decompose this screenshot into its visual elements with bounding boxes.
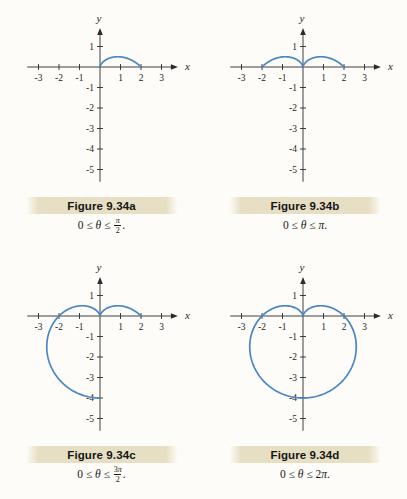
y-axis-arrowhead: [300, 28, 306, 35]
y-tick-label: -1: [289, 332, 297, 342]
y-axis-arrowhead: [97, 277, 103, 284]
y-tick-label: -2: [289, 352, 297, 362]
figure-label-band-a: Figure 9.34a: [26, 197, 178, 214]
x-tick-label: 3: [362, 322, 367, 332]
figure-label-band-d: Figure 9.34d: [229, 446, 381, 463]
greek-letter: π: [321, 468, 327, 480]
y-tick-label: 1: [292, 291, 297, 301]
x-tick-label: -2: [55, 322, 63, 332]
x-tick-label: 2: [342, 73, 347, 83]
theta-range-b: 0 ≤ θ ≤ π.: [283, 215, 327, 235]
x-axis-label: x: [183, 60, 189, 72]
y-tick-label: -3: [86, 373, 94, 383]
y-tick-label: -5: [289, 165, 297, 175]
fraction-numerator: 3π: [114, 465, 122, 474]
greek-letter: θ: [96, 219, 102, 231]
fraction-denominator: 2: [114, 474, 121, 484]
plot-canvas-c: -3-2-11231-1-2-3-4-5xy: [1, 255, 203, 443]
y-axis-arrowhead: [300, 277, 306, 284]
fraction-numerator: π: [116, 216, 120, 225]
x-tick-label: 3: [159, 73, 164, 83]
y-tick-label: -2: [86, 103, 94, 113]
figure-label-band-b: Figure 9.34b: [229, 197, 381, 214]
x-tick-label: -3: [34, 322, 42, 332]
x-axis-label: x: [183, 309, 189, 321]
greek-letter: π: [318, 219, 324, 231]
y-axis-label: y: [299, 12, 305, 24]
y-axis-arrowhead: [97, 28, 103, 35]
fraction: 3π2: [114, 465, 122, 484]
figure-panel-a: -3-2-11231-1-2-3-4-5xy Figure 9.34a 0 ≤ …: [0, 0, 203, 249]
y-tick-label: -1: [86, 332, 94, 342]
x-axis-arrowhead: [374, 64, 381, 70]
x-tick-label: -2: [258, 73, 266, 83]
plot-canvas-d: -3-2-11231-1-2-3-4-5xy: [204, 255, 406, 443]
x-tick-label: 2: [138, 322, 143, 332]
x-tick-label: -3: [238, 73, 246, 83]
y-tick-label: 1: [292, 42, 297, 52]
figure-label-band-c: Figure 9.34c: [26, 446, 178, 463]
x-tick-label: 1: [321, 322, 326, 332]
x-tick-label: -3: [238, 322, 246, 332]
y-tick-label: 1: [89, 42, 94, 52]
x-axis-arrowhead: [374, 313, 381, 319]
figure-panel-d: -3-2-11231-1-2-3-4-5xy Figure 9.34d 0 ≤ …: [203, 249, 407, 499]
y-tick-label: 1: [89, 291, 94, 301]
figure-label-c: Figure 9.34c: [67, 449, 135, 461]
fraction-denominator: 2: [114, 225, 121, 235]
figure-label-b: Figure 9.34b: [271, 200, 340, 212]
greek-letter: π: [118, 465, 122, 474]
y-tick-label: -2: [86, 352, 94, 362]
x-axis-arrowhead: [170, 313, 177, 319]
y-tick-label: -3: [289, 373, 297, 383]
x-tick-label: 1: [118, 73, 123, 83]
y-axis-label: y: [299, 261, 305, 273]
x-tick-label: -1: [75, 73, 83, 83]
theta-range-c: 0 ≤ θ ≤ 3π2.: [77, 464, 125, 484]
x-tick-label: 2: [138, 73, 143, 83]
x-tick-label: -1: [279, 322, 287, 332]
x-tick-label: 3: [159, 322, 164, 332]
y-tick-label: -4: [289, 144, 297, 154]
plot-canvas-a: -3-2-11231-1-2-3-4-5xy: [1, 6, 203, 194]
plot-canvas-b: -3-2-11231-1-2-3-4-5xy: [204, 6, 406, 194]
x-tick-label: -1: [279, 73, 287, 83]
y-tick-label: -5: [289, 414, 297, 424]
x-tick-label: 3: [362, 73, 367, 83]
y-tick-label: -4: [86, 144, 94, 154]
y-axis-label: y: [95, 261, 101, 273]
figure-label-d: Figure 9.34d: [271, 449, 340, 461]
greek-letter: θ: [298, 468, 304, 480]
figure-panel-b: -3-2-11231-1-2-3-4-5xy Figure 9.34b 0 ≤ …: [203, 0, 407, 249]
figure-label-a: Figure 9.34a: [67, 200, 135, 212]
fraction: π2: [114, 216, 121, 235]
x-axis-label: x: [387, 309, 393, 321]
x-tick-label: -3: [34, 73, 42, 83]
y-tick-label: -2: [289, 103, 297, 113]
greek-letter: θ: [301, 219, 307, 231]
greek-letter: π: [116, 216, 120, 225]
x-tick-label: 1: [321, 73, 326, 83]
y-tick-label: -3: [289, 124, 297, 134]
greek-letter: θ: [95, 468, 101, 480]
x-tick-label: -2: [55, 73, 63, 83]
y-tick-label: -3: [86, 124, 94, 134]
x-axis-arrowhead: [170, 64, 177, 70]
y-tick-label: -1: [289, 83, 297, 93]
x-tick-label: 1: [118, 322, 123, 332]
x-tick-label: -2: [258, 322, 266, 332]
x-tick-label: -1: [75, 322, 83, 332]
y-tick-label: -5: [86, 165, 94, 175]
y-axis-label: y: [95, 12, 101, 24]
figure-panel-c: -3-2-11231-1-2-3-4-5xy Figure 9.34c 0 ≤ …: [0, 249, 203, 499]
theta-range-d: 0 ≤ θ ≤ 2π.: [280, 464, 330, 484]
textbook-figure-page: -3-2-11231-1-2-3-4-5xy Figure 9.34a 0 ≤ …: [0, 0, 407, 499]
x-tick-label: 2: [342, 322, 347, 332]
y-tick-label: -1: [86, 83, 94, 93]
y-tick-label: -5: [86, 414, 94, 424]
x-axis-label: x: [387, 60, 393, 72]
theta-range-a: 0 ≤ θ ≤ π2.: [78, 215, 125, 235]
